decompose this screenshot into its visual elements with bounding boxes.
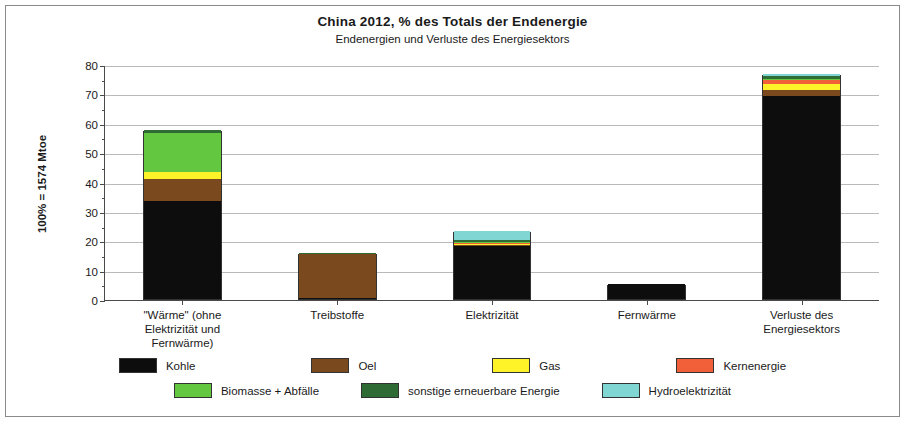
legend-swatch bbox=[602, 383, 640, 398]
chart-frame: China 2012, % des Totals der Endenergie … bbox=[5, 5, 900, 417]
y-tick-label: 50 bbox=[85, 148, 105, 160]
legend-swatch bbox=[119, 358, 157, 373]
bar-segment[interactable] bbox=[763, 76, 840, 79]
legend-item[interactable]: Hydroelektrizität bbox=[602, 383, 731, 398]
legend-swatch bbox=[311, 358, 349, 373]
legend-label: Gas bbox=[539, 360, 560, 372]
bar-group[interactable]: Elektrizität bbox=[453, 66, 532, 300]
bar-segment[interactable] bbox=[144, 133, 221, 172]
bar-segment[interactable] bbox=[299, 253, 376, 254]
bar-segment[interactable] bbox=[299, 254, 376, 298]
x-tick-mark bbox=[802, 300, 803, 305]
x-tick-mark bbox=[492, 300, 493, 305]
legend-swatch bbox=[361, 383, 399, 398]
legend-row-2: Biomasse + Abfällesonstige erneuerbare E… bbox=[6, 383, 899, 398]
y-tick-label: 20 bbox=[85, 236, 105, 248]
bar-segment[interactable] bbox=[763, 90, 840, 96]
y-tick-label: 60 bbox=[85, 119, 105, 131]
bar-segment[interactable] bbox=[144, 201, 221, 299]
y-tick-label: 40 bbox=[85, 178, 105, 190]
stacked-bar[interactable] bbox=[143, 131, 222, 300]
bar-segment[interactable] bbox=[454, 231, 531, 240]
y-tick-label: 30 bbox=[85, 207, 105, 219]
stacked-bar[interactable] bbox=[298, 254, 377, 300]
legend-row-1: KohleOelGasKernenergie bbox=[6, 358, 899, 373]
stacked-bar[interactable] bbox=[762, 75, 841, 300]
chart-header: China 2012, % des Totals der Endenergie … bbox=[6, 14, 899, 45]
y-tick-label: 0 bbox=[92, 295, 105, 307]
stacked-bar[interactable] bbox=[607, 285, 686, 300]
bar-segment[interactable] bbox=[454, 246, 531, 299]
y-tick-label: 70 bbox=[85, 89, 105, 101]
legend-item[interactable]: sonstige erneuerbare Energie bbox=[361, 383, 560, 398]
bar-segment[interactable] bbox=[608, 284, 685, 299]
bar-segment[interactable] bbox=[144, 172, 221, 179]
x-tick-mark bbox=[182, 300, 183, 305]
y-tick-label: 10 bbox=[85, 266, 105, 278]
bar-segment[interactable] bbox=[763, 79, 840, 80]
bar-segment[interactable] bbox=[454, 244, 531, 245]
legend-label: Hydroelektrizität bbox=[649, 385, 731, 397]
bar-group[interactable]: Treibstoffe bbox=[298, 66, 377, 300]
bar-segment[interactable] bbox=[763, 74, 840, 76]
bar-segment[interactable] bbox=[763, 80, 840, 83]
legend-item[interactable]: Oel bbox=[311, 358, 376, 373]
bar-segment[interactable] bbox=[299, 298, 376, 299]
bar-segment[interactable] bbox=[763, 96, 840, 299]
legend-item[interactable]: Kernenergie bbox=[676, 358, 786, 373]
bar-segment[interactable] bbox=[763, 84, 840, 90]
bar-segment[interactable] bbox=[144, 130, 221, 133]
x-tick-mark bbox=[647, 300, 648, 305]
legend-label: Biomasse + Abfälle bbox=[221, 385, 319, 397]
legend-item[interactable]: Biomasse + Abfälle bbox=[174, 383, 319, 398]
bar-group[interactable]: Fernwärme bbox=[607, 66, 686, 300]
plot-area: 01020304050607080 "Wärme" (ohneElektrizi… bbox=[104, 66, 879, 301]
y-axis-title-text: 100% = 1574 Mtoe bbox=[36, 134, 48, 232]
legend-swatch bbox=[174, 383, 212, 398]
chart-subtitle: Endenergien und Verluste des Energiesekt… bbox=[6, 33, 899, 45]
bars-container: "Wärme" (ohneElektrizität undFernwärme)T… bbox=[105, 66, 879, 300]
legend-label: Kohle bbox=[166, 360, 195, 372]
stacked-bar[interactable] bbox=[453, 232, 532, 300]
legend-swatch bbox=[492, 358, 530, 373]
chart-title: China 2012, % des Totals der Endenergie bbox=[6, 14, 899, 29]
legend-item[interactable]: Kohle bbox=[119, 358, 195, 373]
bar-group[interactable]: "Wärme" (ohneElektrizität undFernwärme) bbox=[143, 66, 222, 300]
legend-label: Oel bbox=[358, 360, 376, 372]
bar-group[interactable]: Verluste desEnergiesektors bbox=[762, 66, 841, 300]
legend-swatch bbox=[676, 358, 714, 373]
x-axis-label: Verluste desEnergiesektors bbox=[707, 308, 896, 336]
y-tick-label: 80 bbox=[85, 60, 105, 72]
bar-segment[interactable] bbox=[454, 242, 531, 243]
y-axis-title: 100% = 1574 Mtoe bbox=[34, 66, 50, 301]
legend-label: Kernenergie bbox=[723, 360, 786, 372]
bar-segment[interactable] bbox=[454, 240, 531, 242]
legend-item[interactable]: Gas bbox=[492, 358, 560, 373]
bar-segment[interactable] bbox=[454, 242, 531, 243]
bar-segment[interactable] bbox=[144, 179, 221, 201]
legend: KohleOelGasKernenergie Biomasse + Abfäll… bbox=[6, 358, 899, 398]
bar-segment[interactable] bbox=[454, 245, 531, 246]
x-tick-mark bbox=[337, 300, 338, 305]
legend-label: sonstige erneuerbare Energie bbox=[408, 385, 560, 397]
